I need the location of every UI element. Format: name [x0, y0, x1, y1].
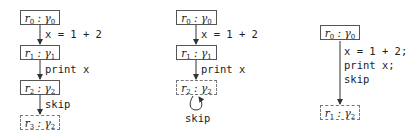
edge-label-d1-0: x = 1 + 2 — [45, 29, 102, 40]
edge-label-d3-line1: x = 1 + 2; — [344, 46, 407, 57]
edge-label-d1-2: skip — [45, 99, 70, 110]
node-d1-0: r0 : γ0 — [20, 10, 60, 25]
node-d2-1: r1 : γ1 — [176, 45, 217, 60]
edge-label-d3-line3: skip — [344, 74, 369, 85]
node-d1-1: r1 : γ1 — [20, 45, 60, 60]
node-d3-1: r1 : γ2 — [320, 105, 360, 120]
edge-label-d2-0: x = 1 + 2 — [201, 29, 258, 40]
node-d2-2: r2 : γ2 — [176, 80, 217, 95]
self-loop-label-d2: skip — [185, 113, 210, 124]
edge-label-d3-line2: print x; — [344, 60, 395, 71]
node-d3-0: r0 : γ0 — [320, 25, 360, 40]
edge-label-d2-1: print x — [201, 64, 245, 75]
node-d1-3: r3 : γ2 — [20, 115, 60, 130]
edge-label-d1-1: print x — [45, 64, 89, 75]
node-d1-2: r2 : γ2 — [20, 80, 60, 95]
node-d2-0: r0 : γ0 — [176, 10, 217, 25]
